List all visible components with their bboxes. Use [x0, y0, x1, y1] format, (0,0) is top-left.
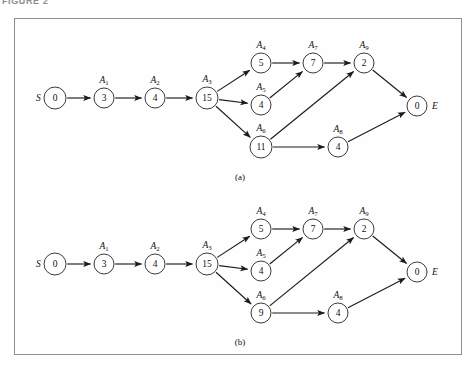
activity-label-A2: A2	[149, 241, 160, 252]
node-A2: 4A2	[145, 75, 165, 109]
node-value-S: 0	[53, 93, 58, 103]
edge-A9-to-E	[373, 236, 407, 264]
activity-label-A9: A9	[358, 206, 369, 217]
node-A2: 4A2	[145, 241, 165, 275]
edge-A3-to-A4	[217, 236, 250, 257]
node-value-A4: 5	[259, 58, 264, 68]
edge-A9-to-E	[373, 70, 407, 98]
edge-A3-to-A6	[216, 272, 251, 304]
activity-label-A5: A5	[255, 82, 266, 93]
node-value-E: 0	[415, 101, 420, 111]
node-A6: 9A6	[251, 290, 271, 324]
panel-a-label: (a)	[235, 172, 245, 182]
node-A8: 4A8	[328, 124, 348, 158]
node-value-A7: 7	[311, 224, 316, 234]
node-value-A4: 5	[259, 224, 264, 234]
node-A7: 7A7	[303, 206, 323, 240]
activity-label-A1: A1	[98, 75, 108, 86]
node-value-A2: 4	[153, 93, 158, 103]
node-A1: 3A1	[94, 75, 114, 109]
node-A1: 3A1	[94, 241, 114, 275]
activity-label-A4: A4	[255, 206, 266, 217]
edge-A8-to-E	[348, 278, 405, 308]
node-A9: 2A9	[354, 40, 374, 74]
node-value-A3: 15	[202, 259, 212, 269]
node-A8: 4A8	[328, 290, 348, 324]
activity-label-A9: A9	[358, 40, 369, 51]
node-A4: 5A4	[251, 206, 271, 240]
node-value-A6: 11	[256, 142, 265, 152]
node-A6: 11A6	[250, 123, 272, 159]
node-value-A7: 7	[311, 58, 316, 68]
node-E: 0E	[407, 262, 438, 282]
terminal-label-S: S	[36, 93, 41, 103]
activity-label-A7: A7	[307, 40, 318, 51]
node-value-S: 0	[53, 259, 58, 269]
node-value-E: 0	[415, 267, 420, 277]
node-value-A1: 3	[102, 93, 107, 103]
node-value-A3: 15	[202, 93, 212, 103]
node-value-A8: 4	[336, 308, 341, 318]
node-A5: 4A5	[251, 248, 271, 282]
activity-label-A7: A7	[307, 206, 318, 217]
node-value-A9: 2	[362, 224, 367, 234]
node-E: 0E	[407, 96, 438, 116]
node-A7: 7A7	[303, 40, 323, 74]
activity-label-A6: A6	[255, 290, 266, 301]
edge-A3-to-A6	[216, 106, 250, 137]
node-A3: 15A3	[196, 240, 218, 276]
activity-label-A6: A6	[255, 123, 266, 134]
activity-label-A5: A5	[255, 248, 266, 259]
edge-A3-to-A4	[217, 70, 250, 91]
node-value-A5: 4	[259, 100, 264, 110]
panel-b-label: (b)	[235, 337, 246, 347]
edge-A5-to-A7	[270, 237, 303, 264]
node-A3: 15A3	[196, 74, 218, 110]
terminal-label-S: S	[36, 259, 41, 269]
node-value-A8: 4	[336, 142, 341, 152]
edge-A8-to-E	[348, 112, 405, 142]
terminal-label-E: E	[431, 101, 438, 111]
activity-label-A1: A1	[98, 241, 108, 252]
panel-a: 0S3A14A215A35A44A511A67A74A82A90E(a)	[36, 40, 438, 183]
activity-label-A3: A3	[201, 74, 212, 85]
network-diagrams: 0S3A14A215A35A44A511A67A74A82A90E(a)0S3A…	[0, 0, 475, 373]
node-A5: 4A5	[251, 82, 271, 116]
node-S: 0S	[36, 87, 66, 109]
node-value-A5: 4	[259, 266, 264, 276]
node-value-A2: 4	[153, 259, 158, 269]
activity-label-A8: A8	[332, 124, 343, 135]
terminal-label-E: E	[431, 267, 438, 277]
activity-label-A8: A8	[332, 290, 343, 301]
node-A4: 5A4	[251, 40, 271, 74]
node-A9: 2A9	[354, 206, 374, 240]
activity-label-A3: A3	[201, 240, 212, 251]
node-value-A9: 2	[362, 58, 367, 68]
activity-label-A4: A4	[255, 40, 266, 51]
activity-label-A2: A2	[149, 75, 160, 86]
node-S: 0S	[36, 253, 66, 275]
edge-A3-to-A5	[219, 266, 248, 270]
edge-A3-to-A5	[219, 100, 248, 104]
figure-page: FIGURE 2 0S3A14A215A35A44A511A67A74A82A9…	[0, 0, 475, 373]
node-value-A6: 9	[259, 308, 264, 318]
edge-A5-to-A7	[270, 71, 303, 98]
node-value-A1: 3	[102, 259, 107, 269]
panel-b: 0S3A14A215A35A44A59A67A74A82A90E(b)	[36, 206, 438, 348]
